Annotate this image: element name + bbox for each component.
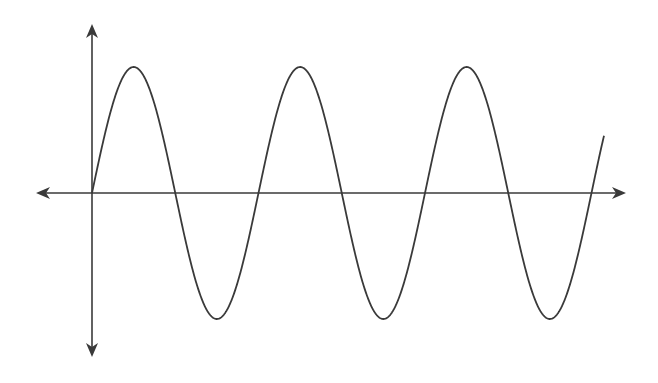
sine-wave-diagram (0, 0, 658, 383)
x-axis (36, 187, 626, 199)
graph-svg (0, 0, 658, 383)
